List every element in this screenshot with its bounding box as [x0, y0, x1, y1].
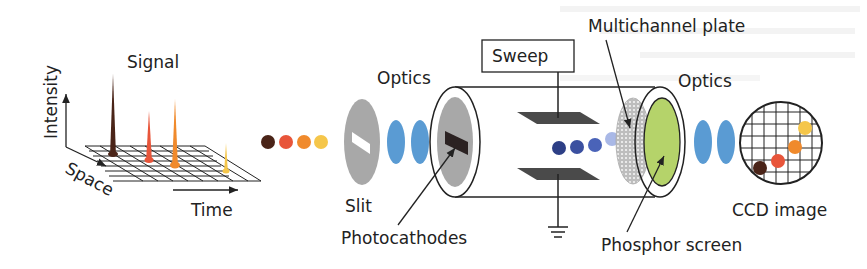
- space-label: Space: [62, 158, 117, 200]
- peak-1: [110, 74, 116, 156]
- ccd-image: CCD image: [732, 102, 827, 220]
- streak-tube: Sweep: [430, 40, 685, 237]
- streak-camera-diagram: Signal Intensity Space Time Slit Optics: [0, 0, 867, 269]
- photocathodes-label: Photocathodes: [341, 228, 467, 248]
- slit-label: Slit: [345, 196, 372, 216]
- phosphor-screen-label: Phosphor screen: [601, 235, 742, 255]
- input-optics: Optics: [377, 68, 431, 164]
- peak-2: [146, 111, 152, 162]
- slit: Slit: [344, 99, 380, 216]
- signal-plot: Signal Intensity Space Time: [41, 52, 261, 220]
- signal-label: Signal: [127, 52, 179, 72]
- ccd-image-label: CCD image: [732, 200, 827, 220]
- peak-3: [172, 99, 178, 168]
- photon-pulses: [261, 135, 328, 149]
- phosphor-screen: [644, 98, 680, 186]
- multichannel-plate-label: Multichannel plate: [588, 16, 745, 36]
- optics-in-label: Optics: [377, 68, 431, 88]
- optics-out-label: Optics: [678, 71, 732, 91]
- intensity-label: Intensity: [41, 65, 61, 139]
- time-label: Time: [190, 200, 233, 220]
- sweep-label: Sweep: [492, 46, 548, 66]
- output-optics: Optics: [678, 71, 735, 164]
